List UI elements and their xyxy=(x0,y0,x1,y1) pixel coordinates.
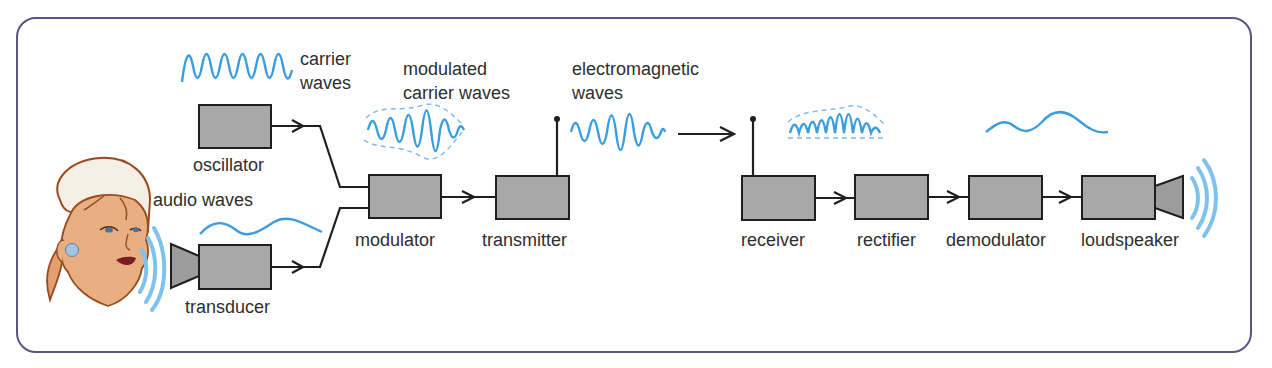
loudspeaker-block xyxy=(1082,176,1183,219)
modulated-carrier-waves-label-line1: modulated xyxy=(403,58,487,80)
carrier-wave-icon xyxy=(182,54,292,82)
transmitter-block xyxy=(496,176,569,219)
modulator-block xyxy=(369,175,441,218)
audio-wave-icon xyxy=(200,219,322,234)
modulator-label: modulator xyxy=(355,229,435,251)
modulated-carrier-wave-icon xyxy=(364,104,464,159)
person-speaking-icon xyxy=(47,158,150,306)
oscillator-label: oscillator xyxy=(193,154,264,176)
oscillator-to-modulator-arrow xyxy=(271,126,369,187)
demodulator-label: demodulator xyxy=(946,229,1046,251)
audio-waves-label: audio waves xyxy=(153,189,253,211)
transducer-block xyxy=(171,244,271,289)
oscillator-block xyxy=(199,105,271,148)
rectified-wave-icon xyxy=(788,106,886,138)
electromagnetic-waves-label-line2: waves xyxy=(572,82,623,104)
modulated-carrier-waves-label-line2: carrier waves xyxy=(403,82,510,104)
carrier-waves-label-line1: carrier xyxy=(300,48,351,70)
sound-waves-output-icon xyxy=(1192,160,1216,236)
receiver-label: receiver xyxy=(741,229,805,251)
electromagnetic-wave-icon xyxy=(571,114,665,150)
transmitter-label: transmitter xyxy=(482,229,567,251)
receiver-block xyxy=(742,176,815,220)
demodulated-wave-icon xyxy=(986,112,1108,132)
rectifier-label: rectifier xyxy=(857,229,916,251)
loudspeaker-label: loudspeaker xyxy=(1081,229,1179,251)
rectifier-block xyxy=(855,175,928,219)
electromagnetic-waves-label-line1: electromagnetic xyxy=(572,58,699,80)
carrier-waves-label-line2: waves xyxy=(300,72,351,94)
transducer-label: transducer xyxy=(185,296,270,318)
demodulator-block xyxy=(969,176,1042,219)
